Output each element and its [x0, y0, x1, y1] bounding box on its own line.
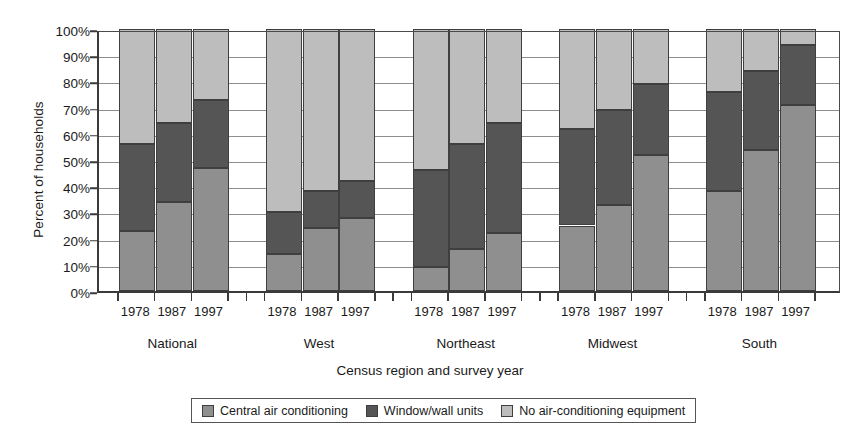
- segment-no-equipment-national-1978: [119, 29, 155, 144]
- bar-northeast-1978: [413, 29, 449, 291]
- x-tick-midwest-1978: [557, 293, 559, 301]
- x-tick-midwest-1997: [631, 293, 633, 301]
- x-tick-west-1987: [301, 293, 303, 301]
- segment-window-wall-south-1987: [743, 71, 779, 150]
- y-tick-label-10: 10%: [38, 259, 90, 274]
- x-tick-gap-0: [246, 293, 248, 301]
- y-tick-label-40: 40%: [38, 181, 90, 196]
- segment-window-wall-west-1987: [303, 191, 339, 228]
- x-tick-end-midwest: [668, 293, 670, 301]
- x-year-label-national-1997: 1997: [194, 304, 223, 319]
- segment-central-ac-west-1978: [266, 254, 302, 291]
- segment-central-ac-midwest-1997: [633, 155, 669, 291]
- segment-central-ac-national-1987: [156, 202, 192, 291]
- x-tick-northeast-1978: [411, 293, 413, 301]
- segment-no-equipment-midwest-1978: [559, 29, 595, 129]
- bar-west-1987: [303, 29, 339, 291]
- y-tick-label-80: 80%: [38, 76, 90, 91]
- y-tick-mark-60: [90, 135, 97, 137]
- x-year-label-west-1987: 1987: [304, 304, 333, 319]
- x-tick-south-1997: [778, 293, 780, 301]
- x-tick-northeast-1987: [447, 293, 449, 301]
- x-tick-northeast-1997: [484, 293, 486, 301]
- y-tick-label-30: 30%: [38, 207, 90, 222]
- segment-window-wall-midwest-1978: [559, 129, 595, 226]
- segment-no-equipment-national-1997: [193, 29, 229, 100]
- y-tick-mark-50: [90, 161, 97, 163]
- bar-national-1987: [156, 29, 192, 291]
- x-year-label-midwest-1987: 1987: [598, 304, 627, 319]
- x-year-label-northeast-1978: 1978: [414, 304, 443, 319]
- y-tick-label-70: 70%: [38, 102, 90, 117]
- y-tick-mark-90: [90, 56, 97, 58]
- bar-northeast-1987: [449, 29, 485, 291]
- bar-midwest-1997: [633, 29, 669, 291]
- plot-area: [97, 31, 840, 293]
- segment-window-wall-west-1978: [266, 212, 302, 254]
- x-year-label-national-1987: 1987: [157, 304, 186, 319]
- x-tick-gap-1: [392, 293, 394, 301]
- segment-central-ac-national-1978: [119, 231, 155, 291]
- y-axis-ticks: 0%10%20%30%40%50%60%70%80%90%100%: [38, 31, 90, 293]
- segment-window-wall-west-1997: [339, 181, 375, 218]
- y-tick-label-0: 0%: [38, 286, 90, 301]
- segment-central-ac-northeast-1978: [413, 267, 449, 291]
- x-tick-national-1997: [191, 293, 193, 301]
- x-year-label-south-1997: 1997: [781, 304, 810, 319]
- y-tick-mark-40: [90, 187, 97, 189]
- x-group-label-midwest: Midwest: [588, 336, 638, 351]
- y-tick-mark-0: [90, 292, 97, 294]
- y-tick-label-100: 100%: [38, 24, 90, 39]
- segment-window-wall-midwest-1987: [596, 110, 632, 204]
- y-tick-mark-70: [90, 109, 97, 111]
- x-tick-midwest-1987: [594, 293, 596, 301]
- segment-no-equipment-midwest-1987: [596, 29, 632, 110]
- x-year-label-midwest-1978: 1978: [561, 304, 590, 319]
- x-year-label-national-1978: 1978: [121, 304, 150, 319]
- segment-no-equipment-west-1978: [266, 29, 302, 212]
- segment-no-equipment-west-1997: [339, 29, 375, 181]
- segment-no-equipment-south-1997: [780, 29, 816, 45]
- segment-no-equipment-midwest-1997: [633, 29, 669, 84]
- bar-midwest-1978: [559, 29, 595, 291]
- legend-item-1: Window/wall units: [366, 404, 483, 418]
- segment-window-wall-northeast-1987: [449, 144, 485, 249]
- segment-central-ac-west-1987: [303, 228, 339, 291]
- segment-no-equipment-northeast-1997: [486, 29, 522, 123]
- x-year-label-west-1978: 1978: [267, 304, 296, 319]
- legend-label-2: No air-conditioning equipment: [519, 404, 685, 418]
- x-tick-end-south: [814, 293, 816, 301]
- x-tick-national-1987: [154, 293, 156, 301]
- segment-window-wall-northeast-1997: [486, 123, 522, 233]
- x-tick-gap-3: [686, 293, 688, 301]
- x-tick-end-west: [374, 293, 376, 301]
- legend-swatch-icon-2: [501, 405, 513, 417]
- x-tick-gap-2: [539, 293, 541, 301]
- x-group-label-national: National: [147, 336, 197, 351]
- x-group-label-south: South: [742, 336, 777, 351]
- y-tick-label-60: 60%: [38, 128, 90, 143]
- bar-national-1978: [119, 29, 155, 291]
- segment-central-ac-south-1978: [706, 191, 742, 291]
- legend-label-1: Window/wall units: [384, 404, 483, 418]
- x-group-label-northeast: Northeast: [436, 336, 495, 351]
- x-tick-south-1978: [704, 293, 706, 301]
- legend-item-0: Central air conditioning: [202, 404, 348, 418]
- segment-central-ac-midwest-1978: [559, 226, 595, 292]
- y-tick-mark-80: [90, 83, 97, 85]
- legend-swatch-icon-0: [202, 405, 214, 417]
- x-year-label-west-1997: 1997: [341, 304, 370, 319]
- segment-central-ac-national-1997: [193, 168, 229, 291]
- bar-south-1997: [780, 29, 816, 291]
- y-tick-label-50: 50%: [38, 155, 90, 170]
- bar-west-1997: [339, 29, 375, 291]
- x-year-label-northeast-1997: 1997: [488, 304, 517, 319]
- segment-central-ac-south-1987: [743, 150, 779, 291]
- segment-window-wall-midwest-1997: [633, 84, 669, 155]
- x-tick-west-1997: [337, 293, 339, 301]
- x-axis-title: Census region and survey year: [0, 363, 860, 378]
- x-group-label-west: West: [304, 336, 335, 351]
- segment-window-wall-national-1987: [156, 123, 192, 202]
- bar-west-1978: [266, 29, 302, 291]
- y-tick-mark-30: [90, 214, 97, 216]
